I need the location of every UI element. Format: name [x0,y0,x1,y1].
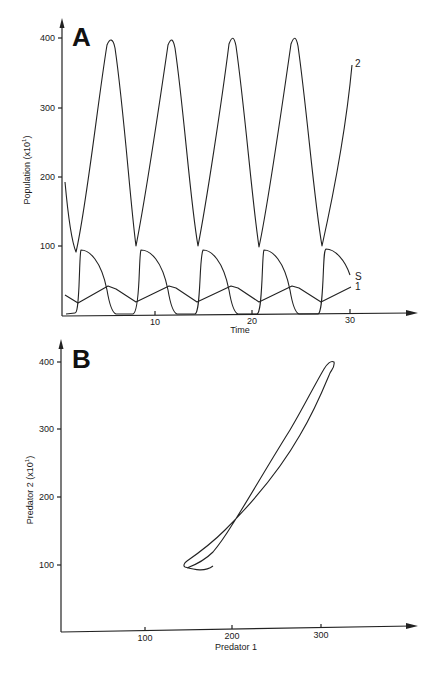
panel-a-ytick-100: 100 [40,241,55,251]
panel-b-x-axis-arrow-icon [406,623,418,629]
panel-b-y-label: Predator 2 (x101) [24,456,35,524]
panel-b-x-ticks: 100 200 300 [137,624,328,643]
panel-b-ytick-300: 300 [39,424,54,434]
panel-a-ytick-300: 300 [40,103,55,113]
panel-b-ytick-100: 100 [39,560,54,570]
panel-b-chart: 400 300 200 100 100 200 300 Predator 1 P… [24,339,418,652]
panel-a-series-1-label: 1 [355,281,361,292]
panel-b-xtick-100: 100 [137,633,152,643]
figure: 400 300 200 100 10 20 30 Time Population… [0,0,440,673]
panel-a-series-2-curve [65,38,352,252]
panel-b-xtick-200: 200 [224,631,239,641]
panel-a-chart: 400 300 200 100 10 20 30 Time Population… [21,18,418,335]
panel-a-ytick-200: 200 [40,172,55,182]
panel-b-limit-cycle-curve [184,361,334,569]
panel-a-x-ticks: 10 20 30 [150,309,355,327]
panel-b-y-ticks: 400 300 200 100 [39,357,61,570]
panel-a-xtick-10: 10 [150,317,160,327]
panel-a-label: A [72,22,91,52]
panel-a-series-s-curve [66,249,350,314]
panel-b-xtick-300: 300 [313,630,328,640]
panel-a-x-label: Time [230,325,250,335]
panel-b-y-axis-arrow-icon [59,339,64,349]
panel-b-x-label: Predator 1 [215,642,257,652]
panel-a-xtick-30: 30 [345,315,355,325]
panel-a-ytick-400: 400 [40,33,55,43]
panel-a-x-axis-arrow-icon [406,310,418,316]
panel-a-y-ticks: 400 300 200 100 [40,33,62,251]
panel-b-ytick-400: 400 [39,357,54,367]
panel-b-label: B [72,344,91,374]
panel-a-y-axis-arrow-icon [60,18,65,28]
panel-a-series-2-label: 2 [355,58,361,69]
panel-a-y-label: Population (x101) [21,136,32,205]
panel-b-ytick-200: 200 [39,492,54,502]
